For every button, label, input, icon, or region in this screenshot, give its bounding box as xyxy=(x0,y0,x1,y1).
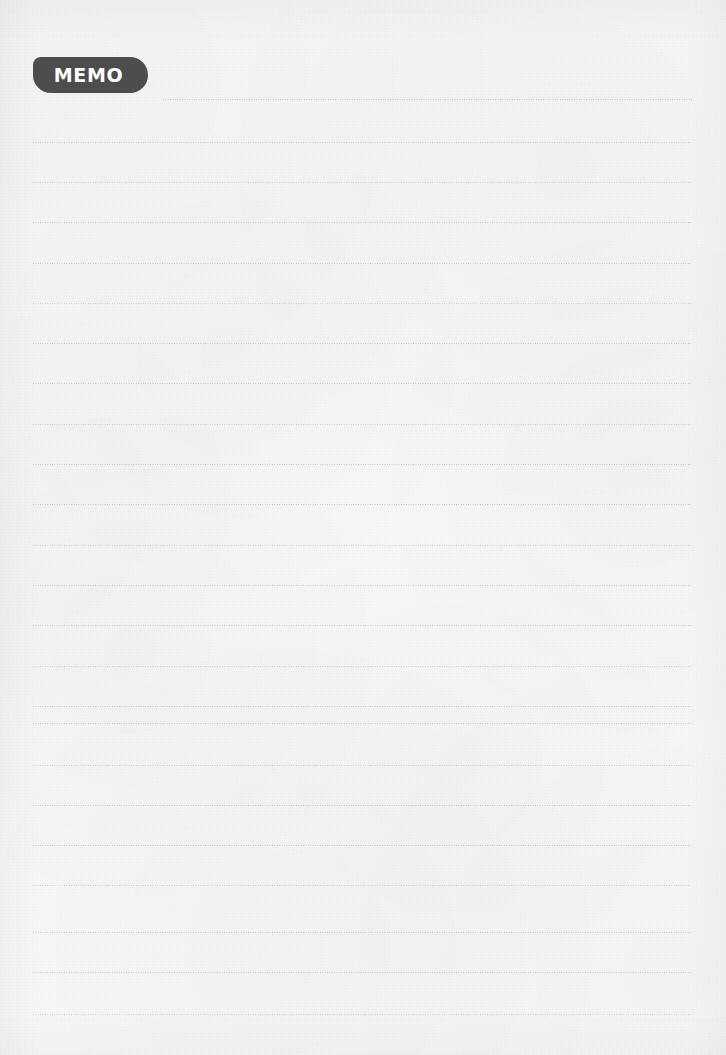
memo-badge: MEMO xyxy=(33,57,148,93)
memo-page: MEMO xyxy=(0,0,726,1055)
memo-badge-label: MEMO xyxy=(54,66,123,85)
writing-area[interactable] xyxy=(33,99,692,1029)
